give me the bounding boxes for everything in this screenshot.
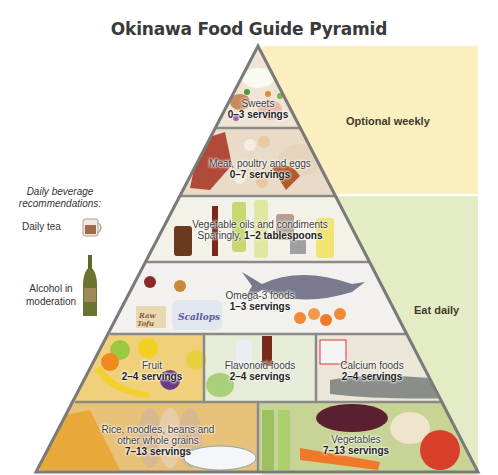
svg-text:Tofu: Tofu xyxy=(137,319,154,328)
grains-label: Rice, noodles, beans and other whole gra… xyxy=(88,424,228,457)
daily-tea-label: Daily tea xyxy=(22,221,61,232)
beverage-heading: Daily beverage recommendations: xyxy=(10,186,110,210)
calcium-label: Calcium foods 2–4 servings xyxy=(322,360,422,382)
flavonoid-label: Flavonoid foods 2–4 servings xyxy=(214,360,306,382)
oils-label: Vegetable oils and condiments Sparingly,… xyxy=(180,219,340,241)
alcohol-label: Alcohol in moderation xyxy=(26,282,76,308)
tea-mug-icon xyxy=(83,219,101,236)
wine-bottle-icon xyxy=(83,255,97,316)
sweets-label: Sweets 0–3 servings xyxy=(208,98,308,120)
fruit-label: Fruit 2–4 servings xyxy=(112,360,192,382)
vegetables-label: Vegetables 7–13 servings xyxy=(316,434,396,456)
meat-label: Meat, poultry and eggs 0–7 servings xyxy=(190,158,330,180)
scallops-label: Scallops xyxy=(178,312,220,322)
omega3-label: Omega-3 foods 1–3 servings xyxy=(210,290,310,312)
